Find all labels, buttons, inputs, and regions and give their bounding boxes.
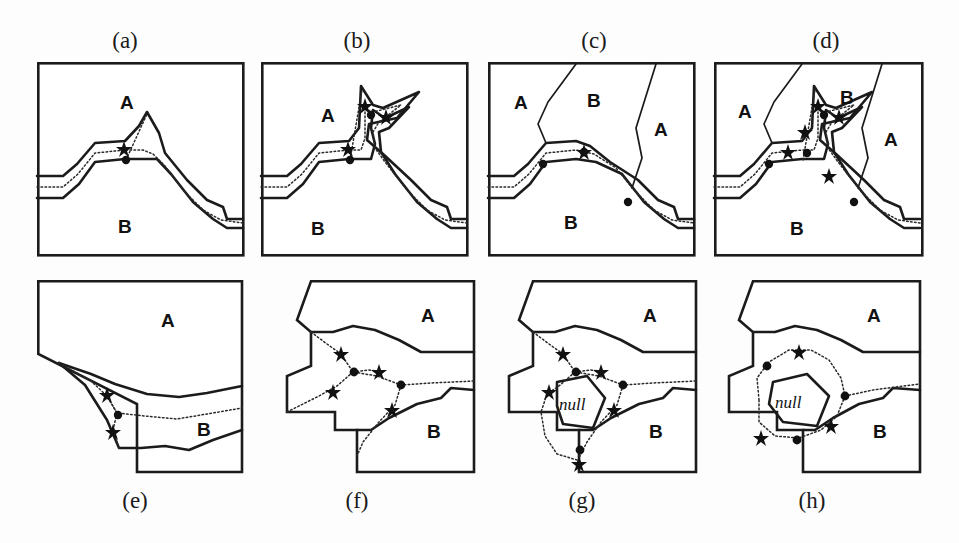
panel-e: A B (37, 280, 245, 475)
panel-h: A B null (717, 280, 923, 475)
panel-f-dot-1 (350, 368, 359, 377)
panel-a-label-A: A (120, 92, 134, 113)
panel-g: A B null (497, 280, 699, 475)
panel-g-dot-1 (572, 368, 581, 377)
panel-h-dot-1 (763, 362, 772, 371)
panel-c-label-A1: A (514, 92, 528, 113)
panel-c-dot-3 (624, 198, 632, 206)
panel-f-dot-2 (397, 381, 406, 390)
panel-b-dot-1 (346, 156, 354, 164)
panel-h-dot-3 (793, 436, 802, 445)
panel-g-dot-2 (619, 381, 628, 390)
panel-caption-a: (a) (85, 28, 165, 54)
panel-b-dot-2 (367, 111, 375, 119)
panel-c-label-B1: B (587, 90, 601, 111)
panel-d-dot-1 (765, 160, 773, 168)
panel-a-label-B: B (118, 216, 132, 237)
panel-caption-c: (c) (554, 28, 634, 54)
panel-caption-d: (d) (786, 28, 866, 54)
panel-g-label-B: B (649, 421, 663, 442)
panel-caption-h: (h) (772, 488, 852, 514)
panel-f-label-A: A (421, 305, 435, 326)
panel-c-label-B2: B (564, 212, 578, 233)
panel-e-dot-1 (114, 411, 122, 419)
panel-caption-f: (f) (317, 488, 397, 514)
panel-d-dot-2 (803, 149, 811, 157)
panel-h-label-A: A (867, 305, 881, 326)
panel-d-dot-3 (820, 111, 828, 119)
panel-f: A B (275, 280, 477, 475)
panel-d-label-B2: B (790, 218, 804, 239)
panel-g-dot-3 (576, 446, 585, 455)
panel-c-dot-1 (539, 160, 547, 168)
panel-c-dot-2 (580, 148, 588, 156)
panel-g-label-null: null (559, 395, 586, 414)
panel-h-label-B: B (873, 421, 887, 442)
panel-a-dot-1 (122, 156, 130, 164)
panel-e-frame (38, 281, 242, 472)
panel-e-label-B: B (197, 419, 211, 440)
panel-d-label-B1: B (840, 87, 854, 108)
panel-d-dot-4 (850, 198, 858, 206)
panel-b-label-A: A (321, 105, 335, 126)
panel-d: A B A B (714, 62, 924, 257)
panel-d-label-A2: A (884, 129, 898, 150)
panel-b-label-B: B (311, 218, 325, 239)
panel-g-label-A: A (643, 305, 657, 326)
panel-caption-e: (e) (95, 488, 175, 514)
panel-f-label-B: B (427, 421, 441, 442)
panel-h-label-null: null (775, 393, 802, 412)
panel-h-star-3 (753, 430, 769, 446)
panel-e-star-2 (105, 424, 121, 440)
panel-d-label-A1: A (738, 101, 752, 122)
figure-canvas: (a) A B (b) (0, 0, 959, 543)
panel-a: A B (37, 62, 245, 257)
panel-caption-b: (b) (317, 28, 397, 54)
panel-e-label-A: A (161, 310, 175, 331)
panel-c-label-A2: A (654, 119, 668, 140)
panel-c: A B A B (488, 62, 696, 257)
panel-b: A B (261, 62, 469, 257)
panel-caption-g: (g) (542, 488, 622, 514)
panel-h-dot-2 (841, 392, 850, 401)
